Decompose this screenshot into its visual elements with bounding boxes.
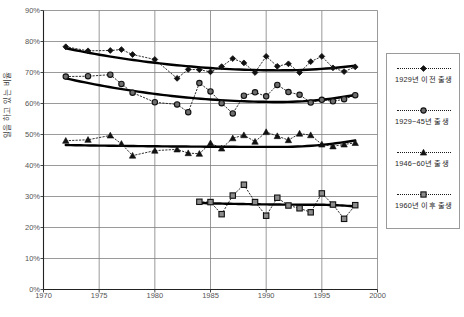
- data-marker-circle: [353, 92, 358, 97]
- data-marker-circle: [308, 100, 313, 105]
- data-marker-square: [353, 202, 358, 207]
- legend-marker-diamond: [418, 63, 429, 74]
- data-marker-square: [230, 193, 235, 198]
- data-marker-circle: [319, 97, 324, 102]
- legend-marker-circle: [418, 105, 429, 116]
- data-marker-diamond: [208, 69, 214, 75]
- data-marker-square: [275, 195, 280, 200]
- legend-item[interactable]: 1946~60년 출생: [395, 148, 464, 168]
- data-marker-square: [241, 182, 246, 187]
- data-marker-circle: [230, 111, 235, 116]
- data-marker-square: [308, 210, 313, 215]
- data-marker-circle: [241, 93, 246, 98]
- data-marker-triangle: [263, 129, 269, 135]
- data-marker-square: [208, 199, 213, 204]
- data-marker-triangle: [252, 138, 258, 144]
- data-marker-triangle: [296, 130, 302, 136]
- data-marker-diamond: [107, 48, 113, 54]
- data-marker-circle: [208, 89, 213, 94]
- data-marker-circle: [263, 94, 268, 99]
- data-marker-circle: [108, 72, 113, 77]
- data-marker-circle: [286, 89, 291, 94]
- data-marker-circle: [197, 80, 202, 85]
- data-marker-circle: [219, 100, 224, 105]
- data-marker-square: [219, 211, 224, 216]
- data-marker-square: [330, 202, 335, 207]
- legend-sample: [397, 190, 451, 199]
- data-marker-circle: [275, 82, 280, 87]
- data-marker-circle: [330, 99, 335, 104]
- legend-label: 1929~45년 출생: [395, 116, 464, 126]
- data-marker-triangle: [63, 138, 69, 144]
- data-marker-square: [319, 191, 324, 196]
- data-marker-square: [341, 216, 346, 221]
- legend-label: 1960년 이후 출생: [395, 200, 464, 210]
- data-marker-diamond: [341, 69, 347, 75]
- data-marker-circle: [341, 96, 346, 101]
- legend-marker-triangle: [418, 147, 429, 158]
- data-marker-square: [197, 199, 202, 204]
- legend-item[interactable]: 1929~45년 출생: [395, 106, 464, 126]
- data-marker-circle: [63, 74, 68, 79]
- legend-item[interactable]: 1929년 이전 출생: [395, 64, 464, 84]
- legend-sample: [397, 64, 451, 73]
- data-marker-circle: [119, 81, 124, 86]
- data-marker-triangle: [107, 132, 113, 138]
- data-marker-circle: [186, 109, 191, 114]
- data-marker-circle: [297, 92, 302, 97]
- legend-marker-square: [418, 189, 429, 200]
- legend-item[interactable]: 1960년 이후 출생: [395, 190, 464, 210]
- data-marker-circle: [130, 90, 135, 95]
- data-marker-circle: [152, 100, 157, 105]
- data-marker-triangle: [274, 133, 280, 139]
- data-marker-triangle: [118, 141, 124, 147]
- data-marker-diamond: [130, 52, 136, 58]
- data-marker-circle: [252, 90, 257, 95]
- series-4: [197, 182, 358, 221]
- legend-label: 1946~60년 출생: [395, 158, 464, 168]
- data-marker-triangle: [285, 137, 291, 143]
- legend: 1929년 이전 출생1929~45년 출생1946~60년 출생1960년 이…: [386, 53, 460, 229]
- chart-figure: 일을 하고 있는 비율 0%10%20%30%40%50%60%70%80%90…: [0, 0, 464, 317]
- data-marker-triangle: [207, 140, 213, 146]
- legend-sample: [397, 148, 451, 157]
- data-marker-square: [286, 203, 291, 208]
- legend-sample: [397, 106, 451, 115]
- data-marker-circle: [174, 102, 179, 107]
- data-marker-diamond: [119, 47, 125, 53]
- data-marker-diamond: [230, 56, 236, 62]
- data-marker-square: [297, 206, 302, 211]
- data-marker-square: [263, 213, 268, 218]
- data-marker-square: [252, 199, 257, 204]
- legend-label: 1929년 이전 출생: [395, 74, 464, 84]
- data-marker-circle: [85, 74, 90, 79]
